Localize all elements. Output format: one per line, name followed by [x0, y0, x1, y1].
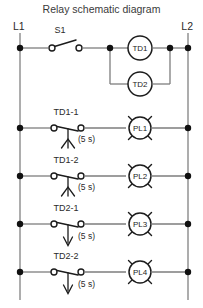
rung-1-node-left	[17, 45, 23, 51]
rung-3-node-left	[17, 173, 23, 179]
rung-2-node-left	[17, 125, 23, 131]
td-branch-node-left	[107, 45, 113, 51]
rung-4-node-left	[17, 221, 23, 227]
schematic-canvas: Relay schematic diagram L1 L2 S1 TD1	[0, 0, 203, 308]
td-branch-node-right	[167, 45, 173, 51]
rung-2: TD1-1 (5 s) PL1	[17, 107, 191, 148]
pl4-lamp-label: PL4	[133, 268, 148, 277]
relay-schematic-diagram: Relay schematic diagram L1 L2 S1 TD1	[0, 0, 203, 308]
td1-2-terminal-right	[78, 173, 84, 179]
rung-1: S1 TD1 TD2	[17, 25, 191, 96]
td1-2-delay-label: (5 s)	[78, 182, 95, 192]
s1-terminal-left	[49, 45, 55, 51]
s1-switch-blade[interactable]	[55, 40, 77, 47]
td2-1-label: TD2-1	[53, 203, 78, 213]
td2-2-terminal-right	[78, 269, 84, 275]
rail-label-l2: L2	[181, 20, 193, 32]
rail-label-l1: L1	[13, 20, 25, 32]
td1-1-terminal-right	[78, 125, 84, 131]
pl2-lamp-label: PL2	[133, 172, 148, 181]
rung-3-node-right	[185, 173, 191, 179]
td2-1-delay-label: (5 s)	[78, 231, 95, 241]
td2-2-delay-label: (5 s)	[78, 279, 95, 289]
td2-1-terminal-left	[51, 221, 57, 227]
td1-1-label: TD1-1	[53, 107, 78, 117]
td2-2-label: TD2-2	[53, 251, 78, 261]
rung-5-node-right	[185, 269, 191, 275]
td1-2-label: TD1-2	[53, 155, 78, 165]
td1-coil-label: TD1	[132, 44, 148, 53]
pl1-lamp-label: PL1	[133, 124, 148, 133]
rung-4-node-right	[185, 221, 191, 227]
td2-2-terminal-left	[51, 269, 57, 275]
pl3-lamp-label: PL3	[133, 220, 148, 229]
rung-1-node-right	[185, 45, 191, 51]
td2-1-terminal-right	[78, 221, 84, 227]
td2-coil-label: TD2	[132, 80, 148, 89]
s1-label: S1	[54, 25, 65, 35]
rung-5-node-left	[17, 269, 23, 275]
td1-2-terminal-left	[51, 173, 57, 179]
s1-terminal-right	[76, 45, 82, 51]
rung-3: TD1-2 (5 s) PL2	[17, 155, 191, 196]
rung-5: TD2-2 (5 s) PL4	[17, 251, 191, 294]
td1-1-delay-label: (5 s)	[78, 134, 95, 144]
td1-1-terminal-left	[51, 125, 57, 131]
rung-2-node-right	[185, 125, 191, 131]
rung-4: TD2-1 (5 s) PL3	[17, 203, 191, 246]
diagram-title: Relay schematic diagram	[43, 3, 161, 15]
